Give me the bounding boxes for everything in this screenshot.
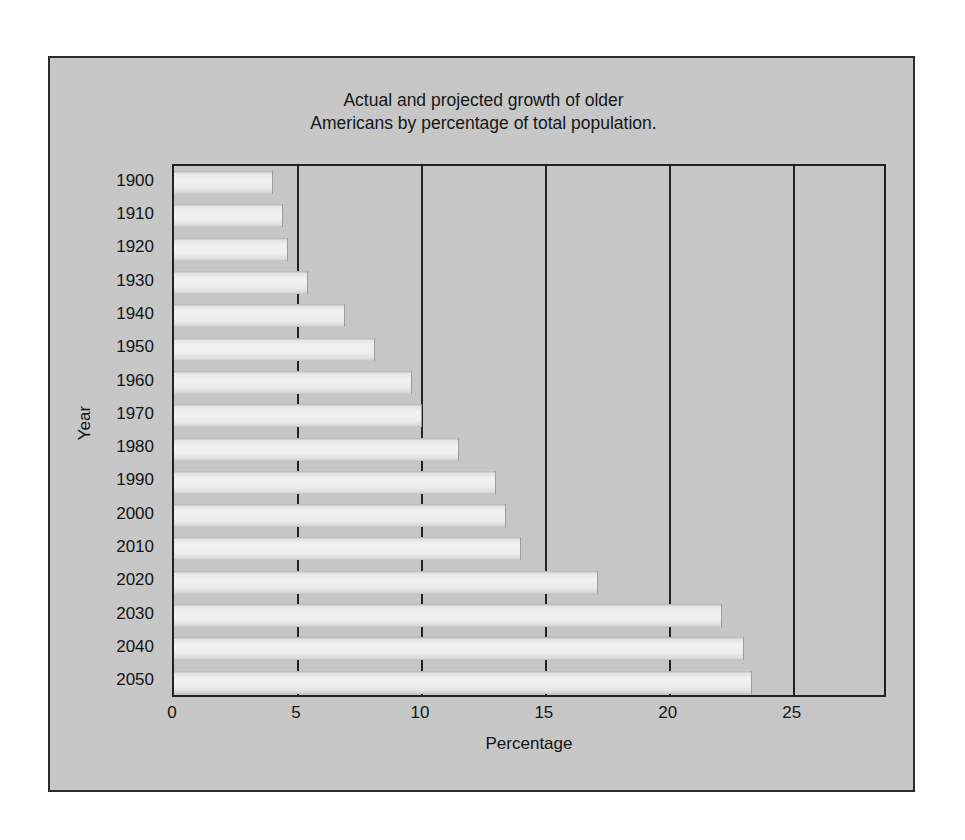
bar-row xyxy=(174,233,884,266)
bar-1960 xyxy=(174,371,412,394)
bar-row xyxy=(174,632,884,665)
bar-row xyxy=(174,399,884,432)
bar-1910 xyxy=(174,204,283,227)
y-tick-label-1910: 1910 xyxy=(78,204,154,224)
y-tick-label-2030: 2030 xyxy=(78,604,154,624)
bar-row xyxy=(174,499,884,532)
bar-1930 xyxy=(174,271,308,294)
y-tick-label-1930: 1930 xyxy=(78,271,154,291)
figure-frame: Actual and projected growth of older Ame… xyxy=(48,56,915,792)
x-tick-label-15: 15 xyxy=(534,703,553,723)
bar-2010 xyxy=(174,537,521,560)
bar-2050 xyxy=(174,671,752,694)
bar-2000 xyxy=(174,504,506,527)
x-tick-label-20: 20 xyxy=(658,703,677,723)
y-tick-label-2010: 2010 xyxy=(78,537,154,557)
y-tick-label-1970: 1970 xyxy=(78,404,154,424)
x-axis-title: Percentage xyxy=(172,734,886,754)
y-tick-label-2040: 2040 xyxy=(78,637,154,657)
y-tick-label-1960: 1960 xyxy=(78,371,154,391)
chart-title: Actual and projected growth of older Ame… xyxy=(50,89,917,135)
bar-row xyxy=(174,599,884,632)
y-tick-label-1990: 1990 xyxy=(78,470,154,490)
x-tick-label-10: 10 xyxy=(410,703,429,723)
bar-1980 xyxy=(174,438,459,461)
bar-row xyxy=(174,199,884,232)
y-tick-label-1920: 1920 xyxy=(78,237,154,257)
bar-row xyxy=(174,466,884,499)
bar-1990 xyxy=(174,471,496,494)
bar-row xyxy=(174,566,884,599)
y-tick-label-1980: 1980 xyxy=(78,437,154,457)
bar-row xyxy=(174,266,884,299)
y-tick-label-2050: 2050 xyxy=(78,670,154,690)
bar-row xyxy=(174,166,884,199)
bar-1920 xyxy=(174,238,288,261)
bar-2020 xyxy=(174,571,598,594)
bar-row xyxy=(174,366,884,399)
figure-page: Actual and projected growth of older Ame… xyxy=(0,0,965,840)
x-tick-label-0: 0 xyxy=(167,703,176,723)
bar-row xyxy=(174,433,884,466)
y-axis-tick-labels: 1900191019201930194019501960197019801990… xyxy=(78,164,154,697)
bar-row xyxy=(174,299,884,332)
y-tick-label-2000: 2000 xyxy=(78,504,154,524)
bar-1970 xyxy=(174,404,422,427)
y-tick-label-1950: 1950 xyxy=(78,337,154,357)
bar-1900 xyxy=(174,171,273,194)
x-axis-tick-labels: 0510152025 xyxy=(172,703,886,727)
bars-layer xyxy=(174,166,884,695)
bar-1940 xyxy=(174,304,345,327)
bar-row xyxy=(174,532,884,565)
bar-1950 xyxy=(174,338,375,361)
plot-area xyxy=(172,164,886,697)
x-tick-label-5: 5 xyxy=(291,703,300,723)
bar-2030 xyxy=(174,604,722,627)
x-tick-label-25: 25 xyxy=(782,703,801,723)
bar-2040 xyxy=(174,637,744,660)
bar-row xyxy=(174,666,884,699)
y-tick-label-2020: 2020 xyxy=(78,570,154,590)
y-tick-label-1940: 1940 xyxy=(78,304,154,324)
y-tick-label-1900: 1900 xyxy=(78,171,154,191)
bar-row xyxy=(174,333,884,366)
